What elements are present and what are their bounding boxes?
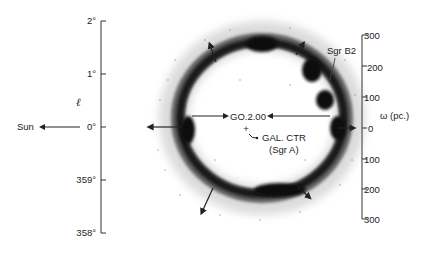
- tick-300-bottom: 300: [364, 214, 380, 225]
- longitude-symbol: ℓ: [76, 96, 81, 108]
- sgr-b2-label: Sgr B2: [327, 45, 356, 56]
- tick-300-top: 300: [364, 30, 380, 41]
- omega-axis-label: ω (pc.): [380, 110, 409, 121]
- galactic-center-label: GAL. CTR: [262, 132, 306, 143]
- tick-2deg: 2°: [87, 15, 96, 26]
- sun-direction: Sun: [17, 121, 80, 132]
- omega-axis: 300 200 100 0 100 200 300 ω (pc.): [362, 30, 409, 225]
- tick-100-top: 100: [364, 92, 380, 103]
- pointer-icon: [249, 134, 257, 138]
- tick-358deg: 358°: [76, 227, 96, 238]
- galactic-center-cross-icon: +: [243, 123, 249, 134]
- molecular-ring: [157, 27, 355, 220]
- go-2-00-label: GO.2.00: [230, 111, 266, 122]
- tick-200-top: 200: [367, 62, 383, 73]
- galactic-ring-diagram: 2° 1° 0° 359° 358° ℓ Sun: [0, 0, 428, 253]
- center-annotations: GO.2.00 + GAL. CTR (Sgr A): [192, 111, 330, 155]
- tick-100-bottom: 100: [364, 154, 380, 165]
- tick-1deg: 1°: [87, 68, 96, 79]
- galactic-center-sub-label: (Sgr A): [269, 144, 299, 155]
- tick-0: 0: [368, 123, 373, 134]
- tick-0deg: 0°: [87, 121, 96, 132]
- sun-label: Sun: [17, 121, 34, 132]
- tick-359deg: 359°: [76, 174, 96, 185]
- longitude-axis: 2° 1° 0° 359° 358° ℓ: [76, 15, 106, 238]
- tick-200-bottom: 200: [364, 184, 380, 195]
